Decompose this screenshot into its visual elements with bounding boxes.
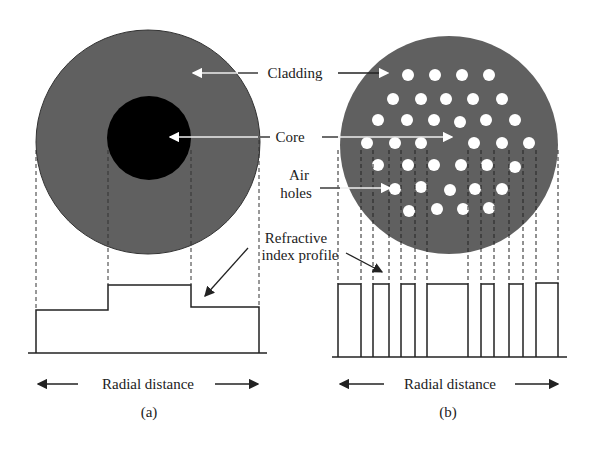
fiber-comparison-diagram: Cladding Core Air holes Refractive index… <box>0 0 589 449</box>
refractive-label-line2: index profile <box>261 247 338 263</box>
core-circle-a <box>107 96 191 180</box>
radial-distance-label-a: Radial distance <box>102 376 194 392</box>
refractive-arrow-b <box>346 253 382 272</box>
air-holes-label-line1: Air <box>289 167 309 183</box>
radial-distance-label-b: Radial distance <box>404 376 496 392</box>
panel-a-fiber <box>28 30 267 353</box>
panel-label-a: (a) <box>141 404 158 421</box>
refractive-profile-b <box>338 283 558 357</box>
panel-b-fiber <box>332 36 567 357</box>
air-holes-label-line2: holes <box>280 185 312 201</box>
refractive-label-line1: Refractive <box>265 230 328 246</box>
refractive-profile-a <box>36 285 259 353</box>
core-label: Core <box>275 129 305 145</box>
panel-label-b: (b) <box>439 404 457 421</box>
cladding-label: Cladding <box>268 65 323 81</box>
refractive-arrow-a <box>205 248 248 296</box>
